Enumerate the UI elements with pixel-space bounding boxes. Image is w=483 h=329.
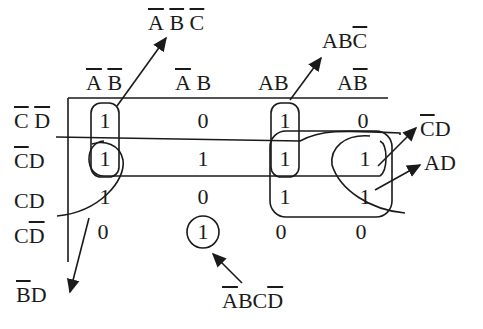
cell-r3-c4: 1 (355, 186, 375, 208)
annotation-ad: AD (424, 152, 456, 174)
cell-r2-c1: 1 (95, 148, 115, 170)
annotation-a-bar-b-c-d-bar: ABCD (222, 290, 283, 312)
var-c: C (190, 10, 205, 35)
var-a: A (222, 288, 238, 313)
annotation-c-bar-d: CD (420, 118, 451, 140)
annotation-abc-c-bar: ABC (322, 30, 367, 52)
annotation-b-bar-d: BD (16, 284, 47, 306)
cell-r3-c1: 1 (95, 186, 115, 208)
col-header-1: A B (86, 72, 122, 94)
var-a: A (148, 10, 164, 35)
col-header-2: A B (175, 72, 211, 94)
kmap-drawing (0, 0, 483, 329)
cell-r1-c1: 1 (95, 110, 115, 132)
cell-r1-c3: 1 (275, 110, 295, 132)
arrow-ad (375, 165, 420, 190)
cell-r4-c3: 0 (271, 221, 291, 243)
cell-r1-c4: 0 (353, 110, 373, 132)
arrow-abc-c-bar (290, 58, 321, 100)
row-header-1: C D (14, 110, 50, 132)
cell-r2-c3: 1 (275, 148, 295, 170)
annotation-abc-bar: A B C (148, 12, 204, 34)
var-ab: AB (322, 28, 353, 53)
var-b: B (16, 282, 31, 307)
var-c: C (420, 116, 435, 141)
cell-r4-c2: 1 (193, 221, 213, 243)
row-header-4: CD (14, 225, 45, 247)
var-b: B (169, 10, 184, 35)
var-d: D (31, 282, 47, 307)
var-d: D (267, 288, 283, 313)
var-bc: BC (238, 288, 267, 313)
row-header-3: CD (14, 190, 45, 212)
col-header-4: AB (337, 72, 368, 94)
cell-r4-c4: 0 (351, 221, 371, 243)
cell-r2-c2: 1 (193, 148, 213, 170)
row-header-2: CD (14, 150, 45, 172)
cell-r4-c1: 0 (93, 221, 113, 243)
var-d: D (435, 116, 451, 141)
cell-r2-c4: 1 (355, 148, 375, 170)
arrow-abc-bar (117, 38, 166, 106)
arrow-a-bar-b-c-d-bar (213, 254, 242, 283)
col-header-3: AB (258, 72, 289, 94)
var-c: C (353, 28, 368, 53)
arrow-b-bar-d (70, 218, 89, 292)
cell-r3-c3: 1 (275, 186, 295, 208)
cell-r3-c2: 0 (193, 186, 213, 208)
cell-r1-c2: 0 (193, 110, 213, 132)
